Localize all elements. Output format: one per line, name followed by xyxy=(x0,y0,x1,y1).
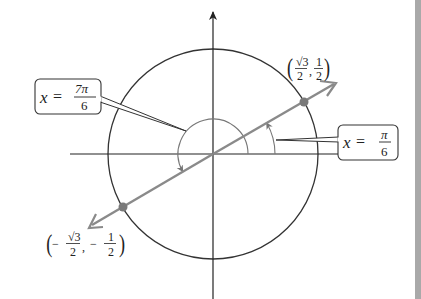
label-point-upper-right: ( √3 2 , 1 2 ) xyxy=(287,53,330,83)
angle-arc-pi-6 xyxy=(267,123,275,154)
callout-right-eq: = xyxy=(356,133,365,150)
svg-text:,: , xyxy=(309,64,312,78)
svg-text:−: − xyxy=(52,237,59,251)
svg-text:2: 2 xyxy=(108,245,114,259)
svg-text:(: ( xyxy=(287,53,293,82)
svg-text:√3: √3 xyxy=(296,55,309,69)
svg-text:−: − xyxy=(90,237,97,251)
callout-left-eq: = xyxy=(53,88,62,105)
svg-text:2: 2 xyxy=(70,245,76,259)
callout-right-den: 6 xyxy=(381,144,388,159)
label-point-lower-left: ( − √3 2 , − 1 2 ) xyxy=(46,229,125,259)
unit-circle-diagram: x = 7π 6 x = π 6 ( √3 2 , 1 2 ) ( − xyxy=(0,0,421,299)
svg-text:2: 2 xyxy=(297,69,303,83)
svg-text:√3: √3 xyxy=(68,230,81,244)
callout-left-num: 7π xyxy=(75,81,89,96)
svg-text:2: 2 xyxy=(316,69,322,83)
callout-left-den: 6 xyxy=(81,98,88,113)
point-upper-right xyxy=(300,98,309,107)
point-lower-left xyxy=(119,203,128,212)
callout-pointer-left xyxy=(100,96,186,131)
svg-text:): ) xyxy=(324,53,330,82)
svg-text:1: 1 xyxy=(316,55,322,69)
svg-text:1: 1 xyxy=(108,230,114,244)
svg-text:,: , xyxy=(82,240,85,254)
page-edge-strip xyxy=(415,0,421,299)
callout-right-var: x xyxy=(342,133,351,152)
svg-text:): ) xyxy=(119,229,125,258)
callout-left-var: x xyxy=(39,88,48,107)
callout-pointer-right xyxy=(276,137,339,142)
terminal-line-lower xyxy=(92,154,213,225)
terminal-line-upper xyxy=(213,84,334,154)
callout-right-num: π xyxy=(381,127,388,142)
